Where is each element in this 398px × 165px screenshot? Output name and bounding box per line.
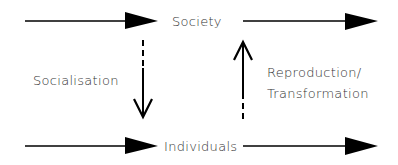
socialisation-label: Socialisation bbox=[33, 73, 119, 88]
arrow-out-of-individuals bbox=[243, 137, 378, 155]
arrow-into-individuals bbox=[25, 137, 158, 154]
arrow-out-of-society bbox=[243, 13, 378, 30]
node-individuals: Individuals bbox=[164, 139, 237, 154]
node-society: Society bbox=[172, 14, 222, 29]
socialisation-arrow bbox=[134, 40, 152, 117]
arrow-into-society bbox=[25, 12, 158, 29]
transformation-label: Transformation bbox=[267, 86, 369, 101]
society-individuals-diagram: Society Individuals Socialisation Reprod… bbox=[0, 0, 398, 165]
reproduction-label: Reproduction/ bbox=[267, 65, 362, 80]
reproduction-transformation-arrow bbox=[234, 42, 252, 122]
